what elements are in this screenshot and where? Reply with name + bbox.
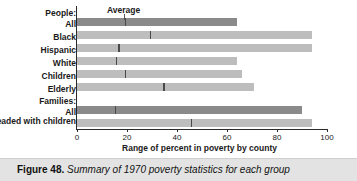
- group-label-people: People:: [45, 9, 76, 18]
- x-tick-100: [327, 129, 328, 132]
- average-tick-people-hispanic: [118, 44, 120, 52]
- x-tick-20: [127, 129, 128, 132]
- average-tick-families-all: [115, 106, 117, 114]
- bar-people-white: [77, 57, 237, 65]
- x-tick-60: [227, 129, 228, 132]
- x-tick-label-40: 40: [173, 133, 182, 142]
- average-tick-people-white: [116, 57, 118, 65]
- chart-plot-area: People: All Black Hispanic White Childre…: [0, 0, 357, 156]
- figure-caption-number: Figure 48.: [17, 164, 64, 175]
- average-tick-people-children: [125, 70, 127, 78]
- x-tick-40: [177, 129, 178, 132]
- bar-people-hispanic: [77, 44, 312, 52]
- figure-caption-bar: Figure 48. Summary of 1970 poverty stati…: [0, 158, 357, 181]
- average-tick-people-black: [150, 31, 152, 39]
- category-label-families-female-headed: Female-headed with children: [0, 117, 76, 126]
- x-tick-label-100: 100: [320, 133, 333, 142]
- category-label-people-children: Children: [42, 72, 76, 81]
- bar-people-children: [77, 70, 242, 78]
- figure-caption: Figure 48. Summary of 1970 poverty stati…: [17, 164, 290, 175]
- average-tick-families-female-headed: [191, 119, 193, 127]
- x-tick-label-0: 0: [75, 133, 79, 142]
- x-axis-title: Range of percent in poverty by county: [0, 143, 357, 153]
- category-label-people-white: White: [53, 59, 76, 68]
- x-tick-label-20: 20: [123, 133, 132, 142]
- figure-caption-text: Summary of 1970 poverty statistics for e…: [67, 164, 290, 175]
- average-annotation-pointer: [124, 14, 125, 20]
- figure-container: People: All Black Hispanic White Childre…: [0, 0, 357, 181]
- category-label-people-hispanic: Hispanic: [41, 46, 76, 55]
- category-label-people-black: Black: [53, 33, 76, 42]
- bar-people-all: [77, 18, 237, 26]
- bar-people-black: [77, 31, 312, 39]
- bar-families-all: [77, 106, 302, 114]
- x-tick-label-80: 80: [273, 133, 282, 142]
- bar-people-elderly: [77, 83, 254, 91]
- group-label-families: Families:: [39, 97, 76, 106]
- category-label-people-all: All: [65, 20, 76, 29]
- x-tick-label-60: 60: [223, 133, 232, 142]
- x-axis-line: [76, 129, 328, 130]
- category-label-people-elderly: Elderly: [48, 85, 76, 94]
- x-tick-80: [277, 129, 278, 132]
- average-tick-people-elderly: [163, 83, 165, 91]
- x-tick-0: [77, 129, 78, 132]
- bar-families-female-headed: [77, 119, 312, 127]
